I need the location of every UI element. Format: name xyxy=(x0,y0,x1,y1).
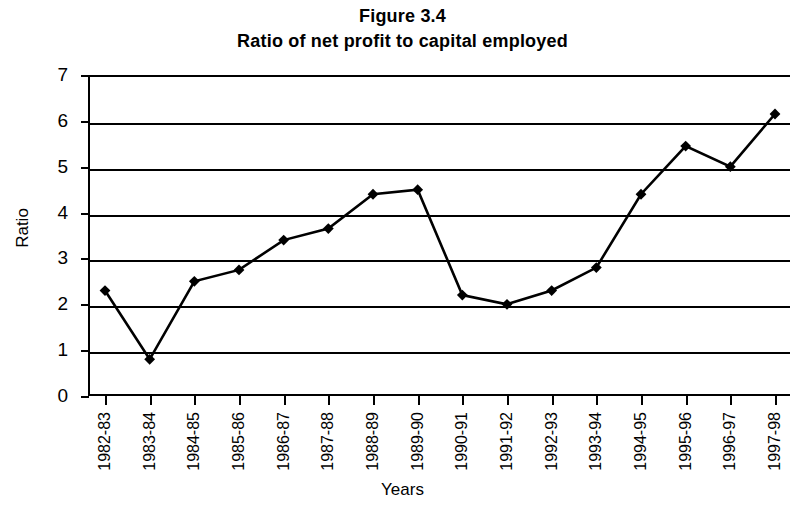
y-axis-tick-label: 4 xyxy=(40,203,68,222)
y-axis-title: Ratio xyxy=(13,183,33,273)
y-axis-tick-label: 2 xyxy=(40,294,68,313)
y-axis-tick-label: 6 xyxy=(40,111,68,130)
x-axis-tick-mark xyxy=(373,396,375,405)
x-axis-tick-label: 1995-96 xyxy=(677,412,695,471)
x-axis-tick-mark xyxy=(105,396,107,405)
figure-container: Figure 3.4 Ratio of net profit to capita… xyxy=(0,0,805,508)
y-axis-tick-label: 1 xyxy=(40,340,68,359)
figure-number: Figure 3.4 xyxy=(0,4,805,29)
x-axis-tick-label: 1993-94 xyxy=(587,412,605,471)
gridline xyxy=(90,123,790,125)
x-axis-tick-label: 1992-93 xyxy=(543,412,561,471)
x-axis-tick-mark xyxy=(507,396,509,405)
gridline xyxy=(90,215,790,217)
x-axis-tick-mark xyxy=(686,396,688,405)
x-axis-tick-label: 1989-90 xyxy=(409,412,427,471)
x-axis-tick-label: 1997-98 xyxy=(766,412,784,471)
x-axis-tick-label: 1991-92 xyxy=(498,412,516,471)
x-axis-tick-mark xyxy=(194,396,196,405)
chart-title-block: Figure 3.4 Ratio of net profit to capita… xyxy=(0,4,805,54)
x-axis-tick-mark xyxy=(641,396,643,405)
x-axis-tick-label: 1990-91 xyxy=(453,412,471,471)
x-axis-tick-label: 1983-84 xyxy=(141,412,159,471)
x-axis-tick-label: 1982-83 xyxy=(96,412,114,471)
x-axis-tick-label: 1984-85 xyxy=(185,412,203,471)
gridline xyxy=(90,169,790,171)
x-axis-tick-label: 1994-95 xyxy=(632,412,650,471)
y-axis-tick-label: 0 xyxy=(40,386,68,405)
x-axis-tick-mark xyxy=(239,396,241,405)
figure-title: Ratio of net profit to capital employed xyxy=(0,29,805,54)
x-axis-tick-mark xyxy=(418,396,420,405)
x-axis-tick-mark xyxy=(150,396,152,405)
y-axis-tick-mark xyxy=(81,396,89,398)
gridline xyxy=(90,260,790,262)
x-axis-tick-label: 1985-86 xyxy=(230,412,248,471)
x-axis-title: Years xyxy=(0,480,805,500)
x-axis-tick-label: 1986-87 xyxy=(275,412,293,471)
gridline xyxy=(90,352,790,354)
x-axis-tick-label: 1988-89 xyxy=(364,412,382,471)
plot-area xyxy=(88,75,790,396)
x-axis-tick-mark xyxy=(730,396,732,405)
y-axis-tick-label: 5 xyxy=(40,157,68,176)
y-axis-tick-label: 7 xyxy=(40,65,68,84)
gridline xyxy=(90,306,790,308)
x-axis-tick-mark xyxy=(328,396,330,405)
x-axis-tick-label: 1987-88 xyxy=(319,412,337,471)
x-axis-tick-mark xyxy=(284,396,286,405)
x-axis-tick-label: 1996-97 xyxy=(721,412,739,471)
x-axis-tick-mark xyxy=(775,396,777,405)
x-axis-tick-mark xyxy=(552,396,554,405)
y-axis-tick-label: 3 xyxy=(40,248,68,267)
x-axis-tick-mark xyxy=(596,396,598,405)
x-axis-tick-mark xyxy=(462,396,464,405)
